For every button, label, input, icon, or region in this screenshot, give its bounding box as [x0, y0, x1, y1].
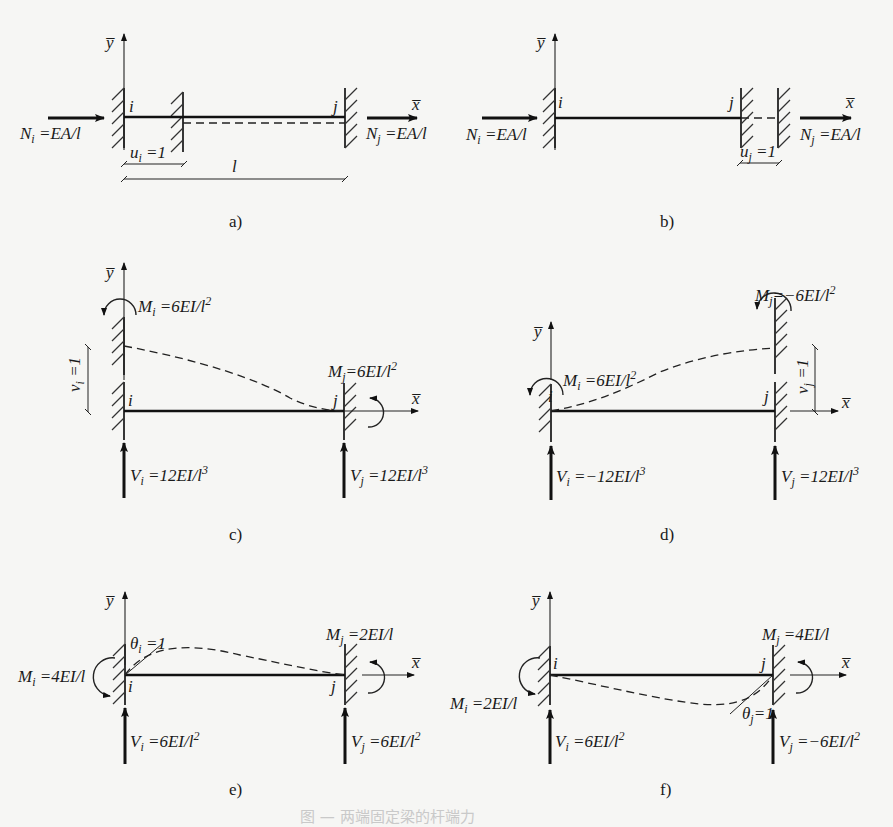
fixed-support-j	[345, 644, 357, 705]
displaced-support-i	[112, 317, 124, 375]
panel-c: y̅ i j x̅ Mi =6EI/l2	[65, 263, 428, 544]
moment-j-label: Mj=−6EI/l2	[754, 283, 835, 308]
node-i-label: i	[128, 677, 133, 696]
node-i-label: i	[129, 97, 134, 116]
fixed-support-j	[773, 645, 785, 705]
axial-force-j-label: Nj =EA/l	[799, 125, 861, 147]
panel-c-caption: c)	[229, 525, 242, 544]
shear-force-i-label: Vi =−12EI/l3	[556, 464, 645, 489]
x-axis-label: x̅	[411, 389, 422, 408]
fixed-support-i	[112, 382, 124, 440]
node-j-label: j	[331, 97, 338, 116]
moment-j-label: Mj =2EI/l	[325, 625, 394, 647]
deformed-shape	[124, 346, 344, 411]
x-axis-label: x̅	[411, 95, 422, 114]
fixed-support-j	[345, 88, 357, 148]
node-j-label: j	[759, 654, 766, 673]
shear-force-j-label: Vj =6EI/l2	[351, 729, 420, 754]
y-axis-label: y̅	[104, 591, 115, 610]
fixed-support-i	[112, 88, 124, 148]
moment-j-arrow	[368, 398, 384, 427]
deformed-shape	[550, 675, 773, 705]
node-j-label: j	[762, 387, 769, 406]
moment-j-arrow	[796, 662, 813, 693]
shear-force-i-label: Vi =6EI/l2	[130, 729, 199, 754]
fixed-support-i	[113, 644, 125, 705]
node-i-label: i	[558, 93, 563, 112]
moment-j-label: Mj=6EI/l2	[327, 359, 397, 384]
y-axis-label: y̅	[532, 322, 543, 341]
node-j-label: j	[727, 93, 734, 112]
moment-i-arrow	[530, 379, 563, 396]
node-i-label: i	[128, 391, 133, 410]
moment-i-label: Mi =4EI/l	[17, 667, 86, 689]
displaced-support-j	[778, 88, 790, 148]
node-j-label: j	[331, 391, 338, 410]
beam-stiffness-figure: y̅ i j	[0, 0, 893, 827]
moment-i-label: Mi =6EI/l2	[137, 294, 211, 319]
displaced-support-j	[775, 298, 787, 374]
panel-f-caption: f)	[660, 780, 671, 799]
y-axis-label: y̅	[104, 263, 115, 282]
moment-i-arrow	[519, 658, 540, 694]
node-i-label: i	[553, 654, 558, 673]
rotation-label: θj=1	[742, 704, 774, 726]
panel-e: y̅ θi =1 i j x̅ Mi =4EI/l Mj =2EI/l	[17, 591, 422, 799]
shear-force-i-label: Vi =12EI/l3	[130, 463, 208, 488]
shear-force-i-label: Vi =6EI/l2	[555, 729, 624, 754]
moment-i-label: Mi =2EI/l	[449, 694, 518, 716]
y-axis-label: y̅	[530, 591, 541, 610]
fixed-support-i	[538, 646, 550, 706]
x-axis-label: x̅	[411, 653, 422, 672]
panel-f: y̅ θj=1 i j x̅ Mi =2EI/l Mj =4EI/l	[449, 591, 860, 799]
axial-force-j-label: Nj =EA/l	[365, 124, 427, 146]
y-axis-label: y̅	[535, 33, 546, 52]
displacement-label: ui =1	[130, 143, 166, 165]
panel-a-caption: a)	[229, 212, 242, 231]
panel-b-caption: b)	[660, 212, 674, 231]
displacement-label: vj =1	[793, 359, 815, 394]
shear-force-j-label: Vj =12EI/l3	[781, 464, 859, 489]
moment-i-label: Mi =6EI/l2	[562, 368, 636, 393]
moment-i-arrow	[93, 658, 115, 696]
fixed-support-i	[543, 88, 555, 148]
shear-force-j-label: Vj =12EI/l3	[350, 463, 428, 488]
panel-d-caption: d)	[660, 525, 674, 544]
x-axis-label: x̅	[841, 393, 852, 412]
panel-d: y̅ i j x̅ Mi =6EI/l2	[530, 283, 859, 544]
x-axis-label: x̅	[841, 653, 852, 672]
node-i-label: i	[548, 387, 553, 406]
rotation-label: θi =1	[130, 634, 166, 656]
y-axis-label: y̅	[104, 33, 115, 52]
x-axis-label: x̅	[845, 93, 856, 112]
moment-i-arrow	[104, 299, 136, 315]
panel-a: y̅ i j	[19, 33, 427, 231]
axial-force-i-label: Ni =EA/l	[19, 124, 81, 146]
panel-b: y̅ i j Ni =EA/l	[465, 33, 861, 231]
panel-e-caption: e)	[229, 780, 242, 799]
axial-force-i-label: Ni =EA/l	[465, 125, 527, 147]
displacement-label: uj =1	[740, 142, 776, 164]
length-label: l	[232, 157, 237, 176]
shear-force-j-label: Vj =−6EI/l2	[779, 729, 860, 754]
figure-caption: 图 — 两端固定梁的杆端力	[300, 808, 475, 826]
fixed-support-j	[775, 382, 787, 442]
node-j-label: j	[329, 677, 336, 696]
moment-j-label: Mj =4EI/l	[761, 625, 830, 647]
moment-j-arrow	[368, 662, 385, 693]
displaced-support-i	[171, 92, 183, 152]
displacement-label: vi =1	[65, 357, 87, 392]
